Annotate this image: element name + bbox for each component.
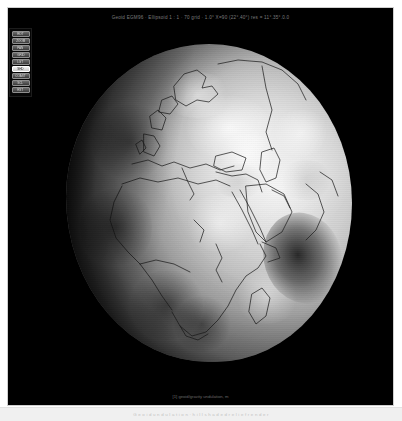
canvas-caption: [1] geoid/gravity undulation, m <box>8 394 393 400</box>
raster-scanlines <box>66 44 352 362</box>
relief-highlight <box>272 110 330 156</box>
relief-shadow <box>92 102 168 182</box>
toolbar-button-label: ROT <box>17 32 23 36</box>
globe-viewport[interactable] <box>8 8 393 405</box>
relief-shadow <box>212 164 266 198</box>
toolbar-button-label: LGT <box>18 60 24 64</box>
toolbar-button-grid[interactable]: GRID <box>12 52 30 58</box>
relief-highlight <box>234 270 300 324</box>
toolbar-button-label: RST <box>17 88 23 92</box>
relief-shadow <box>128 270 206 340</box>
geoid-globe[interactable] <box>66 44 352 362</box>
toolbar-button-label: COAST <box>15 74 25 78</box>
status-text: G e o i d u n d u l a t i o n · h i l l … <box>133 412 269 418</box>
toolbar-button-pan[interactable]: PAN <box>12 45 30 51</box>
toolbar-button-coast[interactable]: COAST <box>12 73 30 79</box>
toolbar-button-scale[interactable]: SCL <box>12 80 30 86</box>
toolbar-button-label: PAN <box>17 46 23 50</box>
coastline-overlay <box>66 44 352 362</box>
status-strip: G e o i d u n d u l a t i o n · h i l l … <box>0 407 402 421</box>
geoid-high-anomaly <box>186 96 272 160</box>
toolbar-button-label: SHD <box>17 67 23 71</box>
toolbar-button-reset[interactable]: RST <box>12 87 30 93</box>
relief-shadow <box>80 184 152 270</box>
toolbar-button-rotate[interactable]: ROT <box>12 31 30 37</box>
toolbar-button-zoom[interactable]: ZOOM <box>12 38 30 44</box>
geoid-low-anomaly <box>252 202 352 314</box>
relief-highlight <box>184 194 256 252</box>
toolbar-button-light[interactable]: LGT <box>12 59 30 65</box>
toolbar-button-label: ZOOM <box>16 39 25 43</box>
toolbar-button-label: SCL <box>18 81 24 85</box>
relief-shadow <box>278 160 334 200</box>
toolbar-button-shade[interactable]: SHD <box>12 66 30 72</box>
relief-shadow <box>172 296 232 352</box>
relief-highlight <box>162 72 232 118</box>
relief-highlight <box>216 134 278 178</box>
view-toolbar[interactable]: ROT ZOOM PAN GRID LGT SHD COAST SCL <box>9 28 32 97</box>
toolbar-button-label: GRID <box>17 53 25 57</box>
render-canvas[interactable]: Geoid EGM96 · Ellipsoid 1 : 1 · 70 grid … <box>7 7 394 406</box>
